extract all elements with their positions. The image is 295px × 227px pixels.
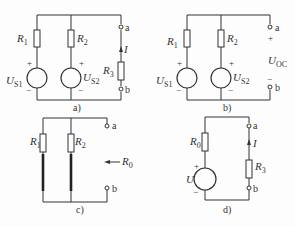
label-r1: R1 — [29, 135, 41, 150]
resistor-r2 — [68, 134, 74, 152]
terminal-a — [105, 124, 109, 128]
label-minus-us1: − — [176, 85, 181, 95]
caption-a: a) — [73, 102, 81, 114]
resistor-r0 — [202, 133, 208, 151]
label-r1: R1 — [166, 35, 178, 50]
label-r0: R0 — [189, 135, 201, 150]
label-minus-us2: − — [228, 85, 233, 95]
panel-c: R1 R2 R0 a b c) — [29, 118, 133, 216]
label-current-i: I — [123, 43, 129, 55]
terminal-a — [119, 25, 123, 29]
label-terminal-b: b — [112, 183, 117, 194]
label-terminal-b: b — [253, 183, 258, 194]
label-r3: R3 — [102, 64, 114, 79]
resistor-r3 — [246, 160, 252, 178]
label-terminal-b: b — [275, 82, 280, 93]
caption-d: d) — [223, 204, 231, 216]
panel-d: R0 + U − I R3 a b d) — [186, 117, 266, 216]
terminal-b — [105, 186, 109, 190]
resistor-r2 — [218, 30, 224, 47]
circuit-figure: R1 R2 + − US1 + − US2 R3 I a b a) R1 R2 … — [0, 0, 295, 227]
label-terminal-b: b — [125, 84, 130, 95]
label-minus-us2: − — [78, 85, 83, 95]
label-us1: US1 — [156, 74, 172, 89]
caption-b: b) — [223, 102, 231, 114]
label-us2: US2 — [83, 71, 99, 86]
resistor-r1 — [34, 30, 40, 47]
label-plus-uoc: + — [268, 33, 273, 43]
resistor-r2 — [68, 30, 74, 47]
terminal-b — [247, 186, 251, 190]
label-terminal-a: a — [112, 120, 117, 131]
resistor-r1 — [184, 30, 190, 47]
label-plus-us1: + — [27, 58, 32, 68]
label-plus-u: + — [194, 161, 199, 171]
arrow-left-icon — [104, 160, 110, 164]
label-minus-us1: − — [26, 85, 31, 95]
label-minus-uoc: − — [267, 74, 272, 84]
label-plus-us2: + — [229, 58, 234, 68]
panel-b: R1 R2 + − US1 + − US2 + UOC − a b b) — [156, 15, 287, 114]
terminal-a — [247, 124, 251, 128]
label-r2: R2 — [226, 32, 238, 47]
label-terminal-a: a — [275, 22, 280, 33]
label-minus-u: − — [193, 187, 198, 197]
label-us2: US2 — [233, 71, 249, 86]
label-terminal-a: a — [253, 120, 258, 131]
terminal-b — [268, 85, 272, 89]
current-arrow-icon — [247, 139, 251, 145]
label-us1: US1 — [6, 74, 22, 89]
current-arrow-icon — [119, 46, 123, 52]
caption-c: c) — [76, 204, 84, 216]
label-r2: R2 — [74, 135, 86, 150]
resistor-r3 — [118, 62, 124, 80]
label-u: U — [186, 173, 195, 185]
wire-loop — [43, 118, 107, 202]
label-plus-us1: + — [177, 58, 182, 68]
label-terminal-a: a — [125, 22, 130, 33]
label-r0: R0 — [121, 155, 133, 170]
label-r2: R2 — [76, 32, 88, 47]
label-plus-us2: + — [79, 58, 84, 68]
label-r3: R3 — [254, 160, 266, 175]
terminal-a — [268, 25, 272, 29]
terminal-b — [119, 87, 123, 91]
panel-a: R1 R2 + − US1 + − US2 R3 I a b a) — [6, 15, 130, 114]
label-r1: R1 — [16, 32, 28, 47]
label-current-i: I — [252, 137, 258, 149]
label-uoc: UOC — [268, 54, 287, 69]
resistor-r1 — [40, 134, 46, 152]
